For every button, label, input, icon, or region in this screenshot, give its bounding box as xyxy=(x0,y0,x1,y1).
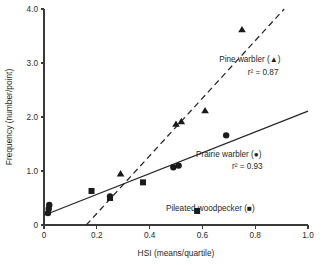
legend-annotation-1: r² = 0.87 xyxy=(248,68,279,77)
y-tick-label: 2.0 xyxy=(27,113,39,122)
regression-line-triangle xyxy=(86,9,284,225)
x-tick-label: 0.6 xyxy=(197,231,209,240)
data-point-square xyxy=(89,188,95,194)
y-tick-label: 4.0 xyxy=(27,5,39,14)
data-point-triangle xyxy=(238,26,246,32)
x-tick-label: 0.8 xyxy=(250,231,262,240)
axes-group xyxy=(44,9,308,225)
data-point-square xyxy=(140,179,146,185)
y-tick-label: 1.0 xyxy=(27,167,39,176)
data-point-circle xyxy=(46,202,52,208)
x-tick-label: 0 xyxy=(42,231,47,240)
data-point-circle xyxy=(223,132,229,138)
data-point-square xyxy=(107,195,113,201)
legend-annotation-4: Pileated woodpecker (■) xyxy=(166,204,255,213)
scatter-plot: 01.02.03.04.0 00.20.40.60.81.0 Pine warb… xyxy=(0,0,322,265)
data-point-circle xyxy=(175,162,181,168)
x-tick-label: 1.0 xyxy=(302,231,314,240)
legend-annotation-3: r² = 0.93 xyxy=(232,162,263,171)
x-axis-ticks: 00.20.40.60.81.0 xyxy=(42,225,314,240)
y-tick-label: 3.0 xyxy=(27,59,39,68)
y-axis-ticks: 01.02.03.04.0 xyxy=(27,5,44,230)
x-tick-label: 0.2 xyxy=(91,231,103,240)
x-axis-title: HSI (means/quartile) xyxy=(138,248,215,258)
y-tick-label: 0 xyxy=(33,221,38,230)
data-point-triangle xyxy=(117,170,125,176)
data-points xyxy=(45,26,246,216)
legend-annotation-0: Pine warbler (▲) xyxy=(219,55,281,64)
x-tick-label: 0.4 xyxy=(144,231,156,240)
data-point-triangle xyxy=(201,107,209,113)
legend-annotation-2: Prairie warbler (●) xyxy=(196,150,262,159)
regression-lines xyxy=(44,9,308,225)
y-axis-title: Frequency (number/point) xyxy=(4,69,14,166)
figure-container: 01.02.03.04.0 00.20.40.60.81.0 Pine warb… xyxy=(0,0,322,265)
